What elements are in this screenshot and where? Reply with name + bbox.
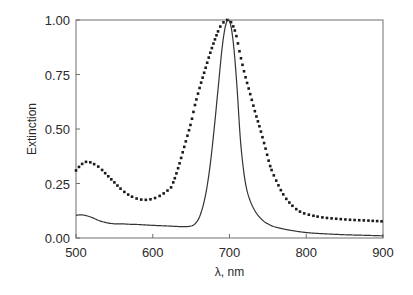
data-point bbox=[254, 110, 257, 113]
data-point bbox=[107, 175, 110, 178]
data-point bbox=[219, 25, 222, 28]
data-point bbox=[308, 213, 311, 216]
data-point bbox=[330, 217, 333, 220]
data-point bbox=[188, 129, 191, 132]
data-point bbox=[116, 184, 119, 187]
data-point bbox=[349, 218, 352, 221]
data-point bbox=[175, 172, 178, 175]
data-point bbox=[264, 147, 267, 150]
data-point bbox=[344, 218, 347, 221]
data-point bbox=[249, 93, 252, 96]
data-point bbox=[273, 174, 276, 177]
series-dotted-points bbox=[75, 19, 383, 223]
y-tick-label: 0.25 bbox=[45, 177, 70, 192]
data-point bbox=[232, 25, 235, 28]
data-point bbox=[201, 76, 204, 79]
data-point bbox=[131, 195, 134, 198]
data-point bbox=[252, 104, 255, 107]
data-point bbox=[277, 184, 280, 187]
data-point bbox=[367, 219, 370, 222]
data-point bbox=[211, 47, 214, 50]
data-point bbox=[127, 193, 130, 196]
data-point bbox=[158, 195, 161, 198]
data-point bbox=[222, 21, 225, 24]
data-point bbox=[326, 217, 329, 220]
data-point bbox=[123, 191, 126, 194]
data-point bbox=[189, 124, 192, 127]
data-point bbox=[181, 151, 184, 154]
data-point bbox=[275, 179, 278, 182]
data-point bbox=[260, 130, 263, 133]
data-point bbox=[257, 120, 260, 123]
data-point bbox=[145, 199, 148, 202]
data-point bbox=[85, 161, 88, 164]
data-point bbox=[162, 192, 165, 195]
data-point bbox=[316, 215, 319, 218]
data-point bbox=[299, 210, 302, 213]
data-point bbox=[113, 181, 116, 184]
data-point bbox=[291, 204, 294, 207]
x-tick-label: 900 bbox=[372, 245, 394, 260]
data-point bbox=[282, 193, 285, 196]
y-axis-ticks: 0.000.250.500.751.00 bbox=[45, 13, 80, 246]
data-point bbox=[206, 61, 209, 64]
data-point bbox=[178, 162, 181, 165]
x-tick-label: 800 bbox=[295, 245, 317, 260]
data-point bbox=[263, 142, 266, 145]
data-point bbox=[303, 212, 306, 215]
data-point bbox=[75, 169, 78, 172]
data-point bbox=[198, 87, 201, 90]
data-point bbox=[214, 38, 217, 41]
data-point bbox=[217, 30, 220, 33]
data-point bbox=[195, 98, 198, 101]
data-point bbox=[295, 208, 298, 211]
data-point bbox=[101, 169, 104, 172]
data-point bbox=[269, 165, 272, 168]
data-point bbox=[371, 220, 374, 223]
series-layer bbox=[75, 19, 383, 236]
data-point bbox=[177, 167, 180, 170]
x-tick-label: 600 bbox=[142, 245, 164, 260]
data-point bbox=[241, 64, 244, 67]
data-point bbox=[247, 87, 250, 90]
data-point bbox=[270, 169, 273, 172]
data-point bbox=[215, 34, 218, 37]
data-point bbox=[255, 115, 258, 118]
data-point bbox=[267, 159, 270, 162]
data-point bbox=[174, 177, 177, 180]
data-point bbox=[209, 51, 212, 54]
data-point bbox=[97, 165, 100, 168]
data-point bbox=[339, 218, 342, 221]
data-point bbox=[104, 172, 107, 175]
y-tick-label: 0.00 bbox=[45, 231, 70, 246]
data-point bbox=[237, 42, 240, 45]
data-point bbox=[110, 178, 113, 181]
data-point bbox=[207, 56, 210, 59]
data-point bbox=[376, 220, 379, 223]
data-point bbox=[170, 186, 173, 189]
data-point bbox=[166, 189, 169, 192]
data-point bbox=[204, 66, 207, 69]
data-point bbox=[243, 70, 246, 73]
data-point bbox=[285, 198, 288, 201]
data-point bbox=[185, 140, 188, 143]
data-point bbox=[358, 219, 361, 222]
data-point bbox=[89, 161, 92, 164]
data-point bbox=[380, 220, 383, 223]
data-point bbox=[234, 29, 237, 32]
data-point bbox=[149, 198, 152, 201]
data-point bbox=[280, 189, 283, 192]
series-solid-line bbox=[76, 20, 383, 236]
data-point bbox=[321, 216, 324, 219]
data-point bbox=[192, 111, 195, 114]
data-point bbox=[183, 146, 186, 149]
data-point bbox=[246, 82, 249, 85]
x-axis-label: λ, nm bbox=[215, 265, 244, 279]
data-point bbox=[186, 134, 189, 137]
y-tick-label: 0.50 bbox=[45, 122, 70, 137]
y-tick-label: 0.75 bbox=[45, 68, 70, 83]
x-tick-label: 700 bbox=[219, 245, 241, 260]
data-point bbox=[154, 197, 157, 200]
data-point bbox=[140, 198, 143, 201]
data-point bbox=[335, 217, 338, 220]
